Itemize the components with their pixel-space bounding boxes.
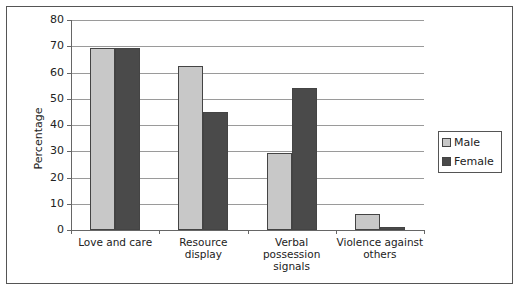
bar-male bbox=[178, 66, 203, 230]
x-tick bbox=[248, 230, 249, 234]
legend-label-male: Male bbox=[454, 136, 480, 149]
y-tick-label: 50 bbox=[44, 92, 64, 105]
legend-item-male: Male bbox=[442, 134, 501, 151]
bar-female bbox=[203, 112, 228, 230]
y-axis bbox=[71, 20, 72, 230]
x-category-label: Love and care bbox=[70, 236, 160, 248]
gridline bbox=[71, 20, 424, 21]
y-tick-label: 20 bbox=[44, 171, 64, 184]
legend-swatch-female bbox=[442, 157, 451, 166]
bar-male bbox=[90, 48, 115, 230]
legend-item-female: Female bbox=[442, 153, 501, 170]
legend-swatch-male bbox=[442, 138, 451, 147]
bar-female bbox=[292, 88, 317, 230]
bar-male bbox=[267, 153, 292, 230]
y-tick-label: 70 bbox=[44, 39, 64, 52]
x-tick bbox=[159, 230, 160, 234]
y-tick-label: 30 bbox=[44, 144, 64, 157]
x-tick bbox=[424, 230, 425, 234]
bar-male bbox=[355, 214, 380, 230]
legend-label-female: Female bbox=[454, 155, 494, 168]
y-tick-label: 10 bbox=[44, 197, 64, 210]
x-category-label: Violence againstothers bbox=[335, 236, 425, 260]
legend: Male Female bbox=[438, 131, 502, 173]
x-category-label: Resourcedisplay bbox=[158, 236, 248, 260]
y-tick-label: 60 bbox=[44, 66, 64, 79]
bar-female bbox=[380, 227, 405, 230]
x-tick bbox=[71, 230, 72, 234]
y-tick-label: 0 bbox=[44, 223, 64, 236]
x-category-label: Verbalpossessionsignals bbox=[247, 236, 337, 272]
y-axis-label: Percentage bbox=[32, 108, 45, 170]
bar-female bbox=[115, 48, 140, 230]
x-tick bbox=[336, 230, 337, 234]
y-tick-label: 40 bbox=[44, 118, 64, 131]
y-tick-label: 80 bbox=[44, 13, 64, 26]
